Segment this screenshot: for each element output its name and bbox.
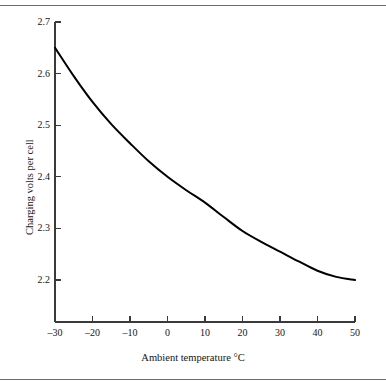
x-tick-label: –30 — [48, 328, 63, 338]
x-tick-label: 20 — [238, 328, 248, 338]
y-tick-label: 2.7 — [14, 17, 50, 27]
data-series-line — [55, 48, 355, 280]
x-tick-label: –20 — [85, 328, 100, 338]
y-tick-label: 2.5 — [14, 120, 50, 130]
x-tick-label: 10 — [200, 328, 210, 338]
x-tick-label: 30 — [275, 328, 285, 338]
x-axis-title: Ambient temperature °C — [0, 352, 386, 363]
axes-group — [55, 22, 355, 322]
tick-marks-group — [55, 22, 355, 322]
x-tick-label: 40 — [313, 328, 323, 338]
y-tick-label: 2.6 — [14, 69, 50, 79]
y-axis-title: Charging volts per cell — [24, 139, 35, 235]
x-tick-label: 50 — [350, 328, 360, 338]
figure-container: 2.22.32.42.52.62.7 –30–20–1001020304050 … — [0, 0, 386, 390]
y-tick-label: 2.2 — [14, 275, 50, 285]
x-tick-label: 0 — [165, 328, 170, 338]
x-tick-label: –10 — [123, 328, 138, 338]
